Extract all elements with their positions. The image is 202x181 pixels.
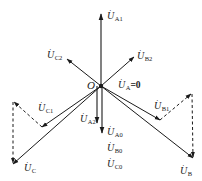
dot-accent: ·	[109, 139, 112, 147]
dot-accent: ·	[139, 47, 142, 55]
origin-label: O	[87, 80, 95, 91]
label-ua-zero: ·UA=0	[118, 80, 141, 92]
label-ua0: ·UA0	[107, 127, 123, 139]
dot-accent: ·	[156, 97, 159, 105]
dot-accent: ·	[109, 155, 112, 163]
dot-accent: ·	[109, 7, 112, 15]
dot-accent: ·	[26, 159, 29, 167]
dot-accent: ·	[120, 76, 123, 84]
label-uc2: ·UC2	[47, 50, 62, 62]
dot-accent: ·	[49, 46, 52, 54]
label-uc0: ·UC0	[107, 159, 122, 171]
label-uc: ·UC	[24, 163, 36, 175]
phasor-diagram: O ·UA1 ·UB2 ·UC2 ·UA=0 ·UC1 ·UB1 ·UA2 ·U…	[0, 0, 202, 181]
dot-accent: ·	[82, 110, 85, 118]
phasor-uc2	[67, 59, 101, 86]
dot-accent: ·	[40, 99, 43, 107]
label-ua1: ·UA1	[107, 11, 123, 23]
label-ua2: ·UA2	[80, 114, 96, 126]
dot-accent: ·	[109, 123, 112, 131]
label-ub0: ·UB0	[107, 143, 122, 155]
label-uc1: ·UC1	[38, 103, 53, 115]
dot-accent: ·	[182, 162, 185, 170]
label-ub: ·UB	[180, 166, 192, 178]
dashed-right-vertical	[192, 94, 193, 157]
origin-point	[99, 84, 103, 88]
label-ub2: ·UB2	[137, 51, 152, 63]
phasor-diagram-svg	[0, 0, 202, 181]
label-ub1: ·UB1	[154, 101, 169, 113]
